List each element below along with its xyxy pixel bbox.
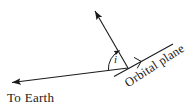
to-earth-arrow xyxy=(12,68,128,83)
to-earth-label: To Earth xyxy=(7,91,54,104)
orbital-inclination-figure: To Earth Orbital plane i xyxy=(0,0,188,109)
orbit-normal-arrow xyxy=(95,11,128,68)
inclination-angle-label: i xyxy=(114,54,117,65)
